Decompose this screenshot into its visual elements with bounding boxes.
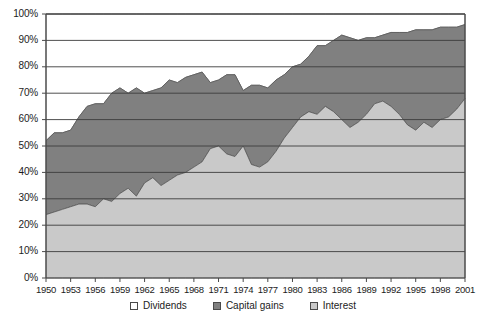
legend-label: Dividends (143, 300, 187, 311)
x-axis-label-1983: 1983 (304, 284, 330, 295)
legend-item-capital-gains[interactable]: Capital gains (213, 300, 284, 311)
y-axis-label-20: 20% (2, 219, 38, 230)
x-axis-label-1995: 1995 (403, 284, 429, 295)
y-axis-label-80: 80% (2, 60, 38, 71)
chart-legend: DividendsCapital gainsInterest (0, 300, 486, 311)
chart-canvas (0, 0, 486, 330)
y-axis-label-40: 40% (2, 166, 38, 177)
x-axis-label-1968: 1968 (181, 284, 207, 295)
y-axis-label-60: 60% (2, 113, 38, 124)
x-axis-label-1962: 1962 (132, 284, 158, 295)
y-axis-label-10: 10% (2, 245, 38, 256)
x-axis-label-1950: 1950 (33, 284, 59, 295)
x-axis-label-1971: 1971 (206, 284, 232, 295)
x-axis-label-1965: 1965 (156, 284, 182, 295)
x-axis-label-1992: 1992 (378, 284, 404, 295)
x-axis-label-1959: 1959 (107, 284, 133, 295)
x-axis-label-1977: 1977 (255, 284, 281, 295)
y-axis-label-70: 70% (2, 87, 38, 98)
y-axis-label-50: 50% (2, 140, 38, 151)
y-axis-label-0: 0% (2, 272, 38, 283)
legend-swatch-icon (130, 302, 138, 310)
x-axis-label-2001: 2001 (452, 284, 478, 295)
x-axis-label-1986: 1986 (329, 284, 355, 295)
legend-swatch-icon (310, 302, 318, 310)
stacked-area-chart: 0%10%20%30%40%50%60%70%80%90%100% 195019… (0, 0, 486, 330)
y-axis-label-30: 30% (2, 192, 38, 203)
x-axis-label-1980: 1980 (279, 284, 305, 295)
legend-item-dividends[interactable]: Dividends (130, 300, 187, 311)
legend-label: Interest (323, 300, 356, 311)
legend-swatch-icon (213, 302, 221, 310)
y-axis-label-100: 100% (2, 8, 38, 19)
x-axis-label-1974: 1974 (230, 284, 256, 295)
x-axis-label-1953: 1953 (58, 284, 84, 295)
legend-item-interest[interactable]: Interest (310, 300, 356, 311)
x-axis-label-1989: 1989 (353, 284, 379, 295)
y-axis-label-90: 90% (2, 34, 38, 45)
x-axis-label-1956: 1956 (82, 284, 108, 295)
x-axis-label-1998: 1998 (427, 284, 453, 295)
legend-label: Capital gains (226, 300, 284, 311)
